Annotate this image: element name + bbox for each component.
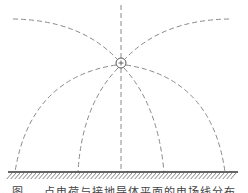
field-line-inner-left-arc	[78, 68, 118, 172]
grounded-plane	[7, 172, 238, 179]
field-line-upper-left-arc	[13, 19, 117, 59]
field-line-outer-left-arc	[15, 65, 116, 172]
point-charge	[116, 58, 126, 68]
field-line-outer-right-arc	[126, 65, 225, 172]
field-lines	[13, 5, 229, 172]
figure-caption: 图 — 点电荷与接地导体平面的电场线分布	[0, 183, 248, 193]
field-line-upper-right-arc	[125, 19, 229, 59]
field-lines-diagram	[0, 0, 248, 193]
field-line-inner-right-arc	[124, 68, 164, 172]
